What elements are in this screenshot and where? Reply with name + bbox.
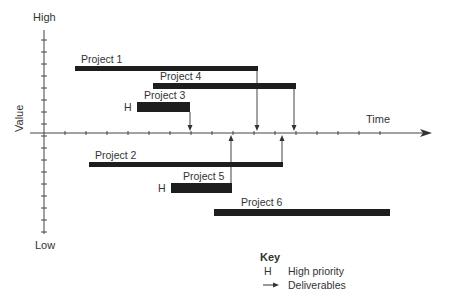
key-symbol-h: H	[264, 266, 272, 277]
project-label-p2: Project 2	[95, 150, 136, 161]
priority-marker-p5: H	[158, 183, 166, 194]
y-axis-title: Value	[14, 105, 25, 132]
priority-marker-p3: H	[124, 102, 132, 113]
key-title: Key	[260, 252, 280, 263]
project-label-p4: Project 4	[160, 71, 201, 82]
project-bar-p6	[214, 209, 390, 216]
deliverable-arrow-icon	[188, 112, 193, 131]
y-axis-high-label: High	[33, 12, 56, 23]
project-label-p6: Project 6	[241, 197, 282, 208]
project-label-p1: Project 1	[81, 54, 122, 65]
y-axis-low-label: Low	[35, 240, 55, 251]
key-label-deliverables: Deliverables	[288, 280, 346, 291]
key-arrow-icon	[263, 283, 279, 288]
project-bar-p5	[171, 183, 232, 193]
deliverable-arrow-icon	[280, 135, 285, 162]
project-bar-p3	[137, 102, 190, 112]
project-label-p5: Project 5	[183, 171, 224, 182]
project-label-p3: Project 3	[144, 90, 185, 101]
deliverable-arrow-icon	[255, 71, 260, 131]
project-bar-p2	[89, 162, 283, 167]
x-axis-title: Time	[366, 114, 390, 125]
diagram-canvas	[0, 0, 452, 306]
key-label-high-priority: High priority	[288, 266, 344, 277]
deliverable-arrow-icon	[292, 89, 297, 131]
deliverable-arrow-icon	[229, 135, 234, 183]
